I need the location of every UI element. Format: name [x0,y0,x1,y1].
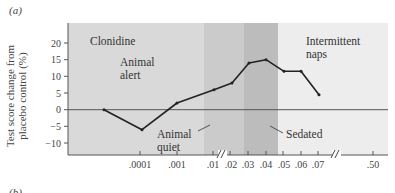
svg-text:.07: .07 [312,159,325,170]
panel-label-b: (b) [9,186,22,193]
svg-text:−10: −10 [45,138,61,149]
annotation-alert-line2: alert [120,69,141,81]
annotation-sedated: Sedated [286,128,323,140]
svg-text:.05: .05 [278,159,291,170]
annotation-naps-line2: naps [306,48,328,61]
axis-break-1 [217,150,227,159]
svg-text:.06: .06 [295,159,308,170]
svg-text:.02: .02 [225,159,238,170]
region-sedated [244,23,278,155]
svg-text:.04: .04 [260,159,273,170]
x-tick-labels: .0001 .001 .01 .02 .03 .04 .05 .06 .07 .… [129,159,380,170]
svg-text:.01: .01 [207,159,220,170]
annotation-naps-line1: Intermittent [306,35,361,47]
svg-text:.001: .001 [168,159,186,170]
y-ticks [64,43,68,143]
svg-text:5: 5 [56,88,61,99]
annotation-clonidine: Clonidine [90,35,135,47]
annotation-quiet-line1: Animal [157,128,192,140]
svg-text:.50: .50 [367,159,380,170]
svg-text:.03: .03 [242,159,255,170]
chart-canvas: 20 15 10 5 0 −5 −10 .0001 .001 .01 .02 [0,0,395,193]
svg-text:15: 15 [51,54,61,65]
region-quiet [204,23,244,155]
svg-text:10: 10 [51,71,61,82]
svg-text:20: 20 [51,38,61,49]
svg-text:.0001: .0001 [129,159,152,170]
annotation-quiet-line2: quiet [157,141,181,154]
svg-text:0: 0 [56,104,61,115]
y-tick-labels: 20 15 10 5 0 −5 −10 [45,38,61,149]
axis-break-2 [331,150,341,159]
annotation-alert-line1: Animal [120,56,155,68]
svg-text:−5: −5 [50,121,61,132]
